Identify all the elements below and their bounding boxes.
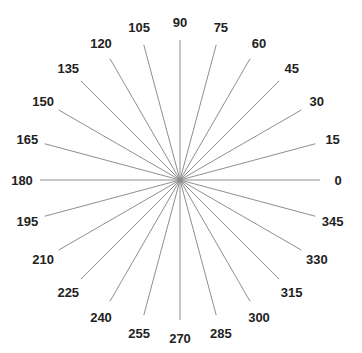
angle-label: 195 xyxy=(17,214,39,227)
spoke-line xyxy=(59,110,180,180)
spoke-line xyxy=(180,180,250,301)
spoke-line xyxy=(81,180,180,279)
spoke-line xyxy=(81,81,180,180)
angle-label: 315 xyxy=(281,285,303,298)
angle-label: 180 xyxy=(11,174,33,187)
spoke-line xyxy=(180,180,315,216)
angle-label: 75 xyxy=(214,21,228,34)
angle-label: 135 xyxy=(57,62,79,75)
angle-label: 0 xyxy=(334,174,341,187)
angle-label: 45 xyxy=(284,62,298,75)
spoke-line xyxy=(110,59,180,180)
angle-label: 330 xyxy=(306,253,328,266)
spoke-line xyxy=(180,45,216,180)
angle-label: 225 xyxy=(57,285,79,298)
spoke-line xyxy=(180,81,279,180)
spoke-line xyxy=(180,180,279,279)
polar-spoke-diagram: 0153045607590105120135150165180195210225… xyxy=(0,0,362,353)
spoke-line xyxy=(45,180,180,216)
angle-label: 210 xyxy=(32,253,54,266)
spoke-lines-layer xyxy=(0,0,362,353)
spoke-line xyxy=(144,180,180,315)
spoke-line xyxy=(45,144,180,180)
angle-label: 255 xyxy=(128,326,150,339)
angle-label: 270 xyxy=(169,332,191,345)
angle-label: 300 xyxy=(248,310,270,323)
spoke-line xyxy=(59,180,180,250)
spoke-line xyxy=(180,110,301,180)
spoke-group xyxy=(40,40,320,320)
spoke-line xyxy=(110,180,180,301)
angle-label: 15 xyxy=(325,133,339,146)
spoke-line xyxy=(180,180,301,250)
spoke-line xyxy=(180,59,250,180)
spoke-line xyxy=(144,45,180,180)
angle-label: 240 xyxy=(90,310,112,323)
spoke-line xyxy=(180,144,315,180)
angle-label: 105 xyxy=(128,21,150,34)
angle-label: 90 xyxy=(173,16,187,29)
angle-label: 120 xyxy=(90,37,112,50)
angle-label: 285 xyxy=(210,326,232,339)
angle-label: 60 xyxy=(252,37,266,50)
angle-label: 345 xyxy=(322,214,344,227)
angle-label: 30 xyxy=(310,95,324,108)
angle-label: 150 xyxy=(32,95,54,108)
spoke-line xyxy=(180,180,216,315)
angle-label: 165 xyxy=(17,133,39,146)
